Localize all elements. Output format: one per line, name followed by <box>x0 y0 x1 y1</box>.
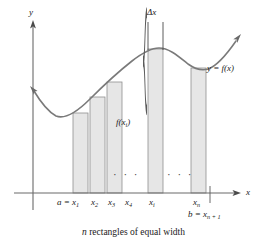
figure-canvas <box>0 0 267 243</box>
function-curve <box>30 34 241 117</box>
height-label-sub: i <box>126 121 128 128</box>
rectangle-i <box>148 49 163 193</box>
x3-sub: 3 <box>112 201 115 208</box>
figure-caption: n rectangles of equal width <box>0 227 267 237</box>
a-label-prefix: a = x <box>57 197 76 207</box>
x4-sub: 4 <box>129 201 132 208</box>
tick-label-x3: x3 <box>108 198 115 207</box>
delta-x-label: Δx <box>147 8 156 17</box>
tick-label-a-x1: a = x1 <box>57 198 79 207</box>
b-label-sub: n + 1 <box>207 213 220 220</box>
x-axis-label: x <box>246 188 250 197</box>
rectangle-2 <box>90 97 105 193</box>
tick-label-xn: xn <box>193 198 200 207</box>
tick-label-b-xn1: b = xn + 1 <box>188 210 221 219</box>
caption-rest: rectangles of equal width <box>87 227 185 237</box>
height-brace <box>143 13 147 111</box>
y-axis <box>30 20 36 210</box>
a-label-sub: 1 <box>76 201 79 208</box>
tick-label-x4: x4 <box>125 198 132 207</box>
tick-label-xi: xi <box>149 198 155 207</box>
b-label-prefix: b = x <box>188 209 207 219</box>
rectangle-1 <box>73 113 88 193</box>
height-label-open: (x <box>119 117 126 127</box>
ellipsis-right: · · · <box>167 168 194 180</box>
y-axis-label: y <box>29 8 33 17</box>
curve-label: y = f(x) <box>207 64 234 73</box>
delta-x-guides <box>148 22 163 50</box>
x2-sub: 2 <box>95 201 98 208</box>
riemann-sum-figure: y x Δx y = f(x) f(xi) a = x1 x2 x3 x4 xi… <box>0 0 267 243</box>
xn-sub: n <box>197 201 200 208</box>
tick-label-x2: x2 <box>91 198 98 207</box>
height-label-close: ) <box>127 117 130 127</box>
x-axis <box>14 190 241 196</box>
xi-sub: i <box>153 201 155 208</box>
height-label-f-x-i: f(xi) <box>116 118 130 127</box>
ellipsis-left: · · · <box>113 168 140 180</box>
